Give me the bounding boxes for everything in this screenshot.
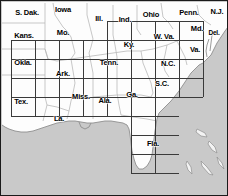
state-label-sc: S.C. xyxy=(155,80,169,88)
state-label-iowa: Iowa xyxy=(55,6,71,14)
map-container: S. Dak. Iowa Ill. Ind. Ohio Penn. N.J. K… xyxy=(0,0,228,196)
state-label-ohio: Ohio xyxy=(143,11,159,19)
state-label-del: Del. xyxy=(208,29,219,37)
state-label-nj: N.J. xyxy=(211,8,224,16)
state-label-miss: Miss. xyxy=(72,93,90,101)
state-label-tex: Tex. xyxy=(14,98,28,106)
state-label-penn: Penn. xyxy=(179,9,198,17)
state-label-ala: Ala. xyxy=(99,97,112,105)
state-label-w-va: W. Va. xyxy=(154,33,174,41)
state-label-layer: S. Dak. Iowa Ill. Ind. Ohio Penn. N.J. K… xyxy=(1,1,228,196)
state-label-md: Md. xyxy=(191,25,203,33)
state-label-ind: Ind. xyxy=(119,16,132,24)
state-label-ga: Ga. xyxy=(126,91,138,99)
state-label-ky: Ky. xyxy=(124,41,135,49)
state-label-mo: Mo. xyxy=(57,29,69,37)
state-label-okla: Okla. xyxy=(14,59,31,67)
state-label-nc: N.C. xyxy=(161,60,175,68)
state-label-fla: Fla. xyxy=(147,140,159,148)
map-frame: S. Dak. Iowa Ill. Ind. Ohio Penn. N.J. K… xyxy=(0,0,228,196)
state-label-la: La. xyxy=(54,115,64,123)
state-label-ill: Ill. xyxy=(95,15,103,23)
state-label-s-dak: S. Dak. xyxy=(15,9,39,17)
state-label-ark: Ark. xyxy=(56,70,70,78)
state-label-tenn: Tenn. xyxy=(100,59,118,67)
state-label-kans: Kans. xyxy=(14,32,33,40)
state-label-va: Va. xyxy=(190,46,200,54)
